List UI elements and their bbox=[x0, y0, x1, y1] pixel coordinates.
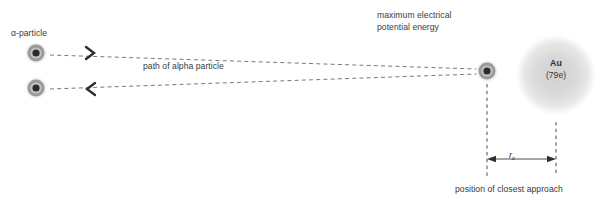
incoming-path-line bbox=[50, 55, 477, 69]
distance-subscript: c bbox=[512, 154, 515, 161]
gold-symbol-label: Au bbox=[536, 58, 576, 68]
turning-point-particle-core bbox=[483, 67, 490, 74]
distance-arrow-head-right bbox=[547, 156, 556, 162]
maximum-energy-line-2: potential energy bbox=[377, 22, 439, 32]
alpha-particle-label: α-particle bbox=[11, 28, 47, 40]
gold-charge-label: (79e) bbox=[531, 70, 581, 80]
position-of-closest-approach-label: position of closest approach bbox=[455, 184, 563, 196]
distance-arrow-head-left bbox=[487, 156, 496, 162]
rutherford-scattering-diagram: α-particle path of alpha particle maximu… bbox=[0, 0, 599, 204]
maximum-potential-energy-label: maximum electricalpotential energy bbox=[377, 10, 451, 33]
diagram-vector-layer bbox=[0, 0, 599, 204]
incoming-direction-arrowhead bbox=[86, 47, 94, 59]
outgoing-path-line bbox=[50, 74, 477, 89]
outgoing-alpha-particle-core bbox=[32, 84, 39, 91]
incoming-alpha-particle-core bbox=[32, 49, 39, 56]
closest-approach-distance-label: rc bbox=[509, 150, 515, 161]
outgoing-direction-arrowhead bbox=[87, 83, 95, 95]
path-of-alpha-particle-label: path of alpha particle bbox=[143, 61, 224, 73]
maximum-energy-line-1: maximum electrical bbox=[377, 10, 451, 20]
